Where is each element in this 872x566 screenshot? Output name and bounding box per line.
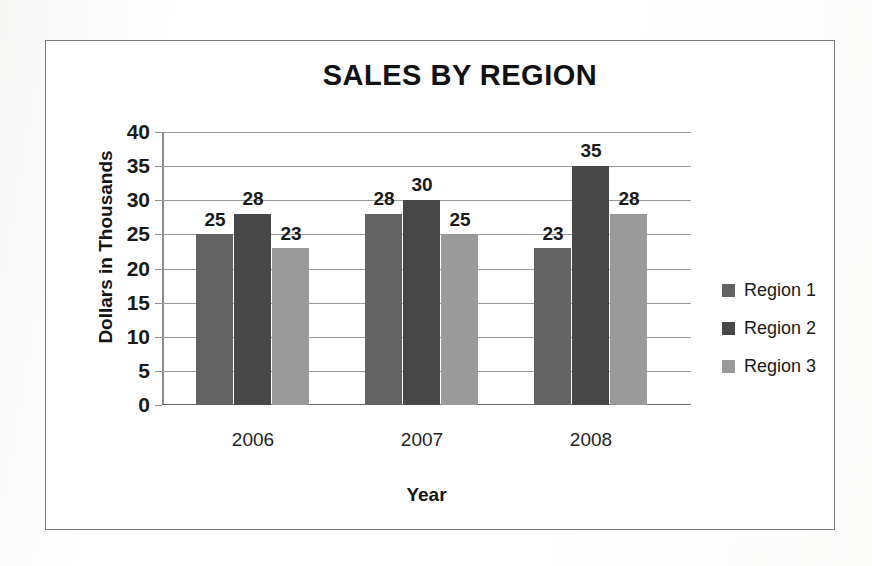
bar-label-2008-region-3: 28: [604, 188, 654, 210]
chart-frame: SALES BY REGION Dollars in Thousands 40 …: [45, 40, 835, 530]
bar-label-2006-region-3: 23: [266, 223, 316, 245]
x-tick-label-2008: 2008: [531, 429, 651, 451]
bar-group-2006: 25 28 23 2006: [196, 132, 356, 405]
bar-2007-region-1[interactable]: [365, 214, 402, 405]
tick-0: [155, 405, 162, 406]
tick-25: [155, 234, 162, 235]
bar-group-2007: 28 30 25 2007: [365, 132, 525, 405]
bar-2008-region-3[interactable]: [610, 214, 647, 405]
legend-item-region-3[interactable]: Region 3: [722, 347, 816, 385]
x-tick-label-2007: 2007: [362, 429, 482, 451]
legend-label-region-2: Region 2: [744, 318, 816, 339]
x-axis-title: Year: [162, 484, 691, 506]
tick-20: [155, 269, 162, 270]
screenshot-root: SALES BY REGION Dollars in Thousands 40 …: [0, 0, 872, 566]
bar-label-2008-region-2: 35: [566, 140, 616, 162]
y-axis-title: Dollars in Thousands: [95, 147, 117, 347]
plot-area: 40 35 30 25 20 15 10 5 0: [162, 132, 691, 405]
tick-5: [155, 371, 162, 372]
bar-2007-region-3[interactable]: [441, 234, 478, 405]
legend-swatch-icon-region-1: [722, 284, 735, 297]
bar-label-2006-region-2: 28: [228, 188, 278, 210]
legend-label-region-1: Region 1: [744, 280, 816, 301]
legend-swatch-icon-region-3: [722, 360, 735, 373]
bar-2006-region-1[interactable]: [196, 234, 233, 405]
tick-35: [155, 166, 162, 167]
y-tick-label-20: 20: [127, 257, 150, 281]
legend-label-region-3: Region 3: [744, 356, 816, 377]
y-tick-label-0: 0: [138, 393, 150, 417]
y-tick-label-10: 10: [127, 325, 150, 349]
y-tick-label-25: 25: [127, 222, 150, 246]
legend-item-region-1[interactable]: Region 1: [722, 271, 816, 309]
bar-label-2007-region-2: 30: [397, 174, 447, 196]
x-tick-label-2006: 2006: [193, 429, 313, 451]
y-tick-label-5: 5: [138, 359, 150, 383]
tick-30: [155, 200, 162, 201]
tick-10: [155, 337, 162, 338]
bar-group-2008: 23 35 28 2008: [534, 132, 694, 405]
legend-item-region-2[interactable]: Region 2: [722, 309, 816, 347]
chart-title: SALES BY REGION: [46, 59, 834, 92]
bar-2006-region-3[interactable]: [272, 248, 309, 405]
chart-legend: Region 1 Region 2 Region 3: [722, 271, 816, 385]
bar-label-2007-region-3: 25: [435, 209, 485, 231]
bar-2008-region-1[interactable]: [534, 248, 571, 405]
y-tick-label-35: 35: [127, 154, 150, 178]
tick-15: [155, 303, 162, 304]
bar-label-2006-region-1: 25: [190, 209, 240, 231]
y-tick-label-30: 30: [127, 188, 150, 212]
legend-swatch-icon-region-2: [722, 322, 735, 335]
tick-40: [155, 132, 162, 133]
y-tick-label-15: 15: [127, 291, 150, 315]
y-tick-label-40: 40: [127, 120, 150, 144]
bar-label-2008-region-1: 23: [528, 223, 578, 245]
